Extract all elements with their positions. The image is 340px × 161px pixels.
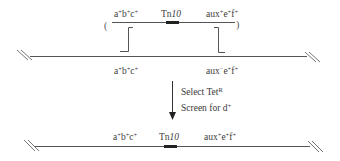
break-mark-icon (305, 52, 320, 62)
step-screen-text: Screen for d+ (181, 103, 231, 113)
result-left-genotype: a+b+c+ (113, 132, 137, 142)
result-right-genotype: aux+e+f+ (204, 132, 236, 142)
donor-right-genotype: aux+e+f+ (206, 9, 238, 19)
right-crossover-bracket (214, 28, 225, 53)
donor-left-genotype: a+b+c+ (114, 9, 138, 19)
break-mark-icon (308, 141, 323, 152)
recipient-right-genotype: aux−e+f+ (206, 66, 238, 76)
donor-close-paren: ) (236, 19, 239, 30)
result-tn10-label: Tn10 (159, 132, 179, 142)
break-mark-icon (17, 50, 32, 60)
result-tn10-segment (164, 145, 177, 148)
left-crossover-bracket (120, 28, 133, 52)
down-arrow-icon (169, 112, 176, 120)
step-select-text: Select TetR (181, 87, 223, 97)
donor-open-paren: ( (104, 20, 107, 31)
donor-tn10-label: Tn10 (161, 9, 181, 19)
break-mark-icon (24, 140, 39, 151)
recipient-left-genotype: a+b+c+ (114, 66, 138, 76)
donor-tn10-segment (166, 21, 179, 24)
